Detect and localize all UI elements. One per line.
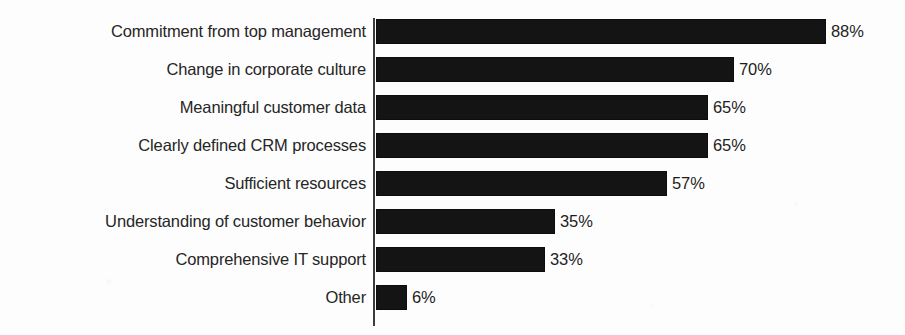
- category-label: Meaningful customer data: [0, 95, 366, 120]
- bar-row: Comprehensive IT support33%: [0, 247, 905, 272]
- bar-value-label: 6%: [412, 285, 436, 310]
- bar-value-label: 70%: [739, 57, 772, 82]
- bar-value-label: 88%: [831, 19, 864, 44]
- bar-row: Meaningful customer data65%: [0, 95, 905, 120]
- bar-value-label: 57%: [672, 171, 705, 196]
- category-label: Clearly defined CRM processes: [0, 133, 366, 158]
- bar: [376, 209, 555, 234]
- bar-row: Understanding of customer behavior35%: [0, 209, 905, 234]
- category-label: Understanding of customer behavior: [0, 209, 366, 234]
- bar-value-label: 65%: [713, 95, 746, 120]
- bar-value-label: 33%: [550, 247, 583, 272]
- bar: [376, 247, 545, 272]
- bar-row: Sufficient resources57%: [0, 171, 905, 196]
- category-label: Commitment from top management: [0, 19, 366, 44]
- bar-chart: Commitment from top management88%Change …: [0, 0, 905, 335]
- bar-value-label: 65%: [713, 133, 746, 158]
- category-label: Other: [0, 285, 366, 310]
- bar-row: Commitment from top management88%: [0, 19, 905, 44]
- bar: [376, 285, 407, 310]
- bar: [376, 19, 826, 44]
- bar: [376, 95, 708, 120]
- bar: [376, 57, 734, 82]
- bar-row: Change in corporate culture70%: [0, 57, 905, 82]
- bar: [376, 133, 708, 158]
- bar: [376, 171, 667, 196]
- plot-area: Commitment from top management88%Change …: [0, 0, 905, 335]
- category-label: Comprehensive IT support: [0, 247, 366, 272]
- category-label: Sufficient resources: [0, 171, 366, 196]
- bar-value-label: 35%: [560, 209, 593, 234]
- bar-row: Other6%: [0, 285, 905, 310]
- category-label: Change in corporate culture: [0, 57, 366, 82]
- bar-row: Clearly defined CRM processes65%: [0, 133, 905, 158]
